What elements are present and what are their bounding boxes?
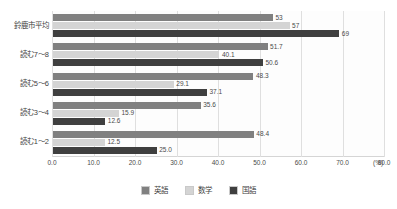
category-label: 読む7〜8 xyxy=(20,51,49,59)
bar-英語[interactable] xyxy=(53,73,253,80)
bar-value-label: 48.3 xyxy=(253,73,268,80)
bar-row: 35.6 xyxy=(53,102,385,109)
bar-value-label: 40.1 xyxy=(219,52,234,59)
legend-label: 数学 xyxy=(198,187,212,195)
bar-value-label: 12.5 xyxy=(105,139,120,146)
bar-row: 12.5 xyxy=(53,139,385,146)
bar-数学[interactable] xyxy=(53,22,290,29)
bar-row: 51.7 xyxy=(53,43,385,50)
bar-英語[interactable] xyxy=(53,102,201,109)
bar-英語[interactable] xyxy=(53,14,273,21)
x-axis-tick-label: 70.0 xyxy=(336,160,349,167)
bar-value-label: 12.6 xyxy=(105,118,120,125)
x-axis-tick-label: 30.0 xyxy=(170,160,183,167)
bar-row: 37.1 xyxy=(53,89,385,96)
bar-row: 53 xyxy=(53,14,385,21)
legend-label: 英語 xyxy=(154,187,168,195)
category-label: 鈴鹿市平均 xyxy=(14,22,49,30)
bar-row: 12.6 xyxy=(53,118,385,125)
bar-国語[interactable] xyxy=(53,30,339,37)
x-axis-tick-label: 10.0 xyxy=(87,160,100,167)
bar-row: 57 xyxy=(53,22,385,29)
bar-row: 48.4 xyxy=(53,131,385,138)
category-axis-labels: 鈴鹿市平均読む7〜8読む5〜6読む3〜4読む1〜2 xyxy=(0,11,49,157)
bar-英語[interactable] xyxy=(53,131,254,138)
bar-value-label: 15.9 xyxy=(119,110,134,117)
legend-item[interactable]: 国語 xyxy=(229,186,256,195)
bar-group: 51.740.150.6 xyxy=(53,43,385,67)
bar-group: 535769 xyxy=(53,14,385,38)
bar-chart: 鈴鹿市平均読む7〜8読む5〜6読む3〜4読む1〜2 53576951.740.1… xyxy=(0,0,397,209)
bar-value-label: 69 xyxy=(339,30,349,37)
legend-label: 国語 xyxy=(242,187,256,195)
plot-area: 53576951.740.150.648.329.137.135.615.912… xyxy=(52,11,385,157)
x-axis-tick-label: 20.0 xyxy=(129,160,142,167)
bar-value-label: 51.7 xyxy=(268,44,283,51)
bar-国語[interactable] xyxy=(53,147,157,154)
bar-row: 50.6 xyxy=(53,59,385,66)
bar-group: 48.412.525.0 xyxy=(53,131,385,155)
legend-item[interactable]: 英語 xyxy=(141,186,168,195)
legend-item[interactable]: 数学 xyxy=(185,186,212,195)
category-label: 読む1〜2 xyxy=(20,138,49,146)
bar-value-label: 50.6 xyxy=(263,60,278,67)
bar-group: 35.615.912.6 xyxy=(53,102,385,126)
x-axis-tick-label: 40.0 xyxy=(212,160,225,167)
bar-row: 40.1 xyxy=(53,51,385,58)
bar-英語[interactable] xyxy=(53,43,268,50)
legend-swatch-icon xyxy=(185,186,194,195)
x-axis-unit-label: (%) xyxy=(373,160,383,167)
bar-value-label: 57 xyxy=(290,22,300,29)
bar-数学[interactable] xyxy=(53,139,105,146)
bar-value-label: 48.4 xyxy=(254,131,269,138)
category-label: 読む5〜6 xyxy=(20,80,49,88)
bar-国語[interactable] xyxy=(53,89,207,96)
bar-value-label: 29.1 xyxy=(174,81,189,88)
bar-国語[interactable] xyxy=(53,118,105,125)
bar-row: 48.3 xyxy=(53,73,385,80)
bar-row: 69 xyxy=(53,30,385,37)
chart-legend: 英語数学国語 xyxy=(0,186,397,195)
bar-value-label: 25.0 xyxy=(157,147,172,154)
bar-group: 48.329.137.1 xyxy=(53,73,385,97)
bar-value-label: 35.6 xyxy=(201,102,216,109)
legend-swatch-icon xyxy=(229,186,238,195)
x-axis-tick-label: 0.0 xyxy=(47,160,56,167)
category-label: 読む3〜4 xyxy=(20,109,49,117)
legend-swatch-icon xyxy=(141,186,150,195)
x-axis-tick-label: 60.0 xyxy=(295,160,308,167)
bar-row: 29.1 xyxy=(53,81,385,88)
bar-数学[interactable] xyxy=(53,51,219,58)
bar-row: 25.0 xyxy=(53,147,385,154)
bar-row: 15.9 xyxy=(53,110,385,117)
bar-value-label: 53 xyxy=(273,14,283,21)
bar-value-label: 37.1 xyxy=(207,89,222,96)
x-axis-tick-label: 50.0 xyxy=(253,160,266,167)
bar-数学[interactable] xyxy=(53,110,119,117)
bar-国語[interactable] xyxy=(53,59,263,66)
bar-数学[interactable] xyxy=(53,81,174,88)
